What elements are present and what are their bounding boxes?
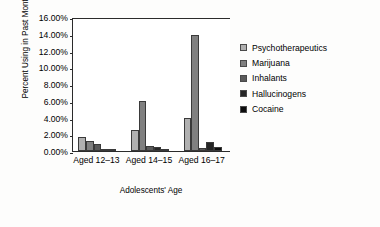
- y-axis-tick-label: 8.00%: [44, 80, 68, 90]
- bar-group: [78, 19, 116, 151]
- bar: [101, 149, 109, 151]
- legend-swatch-icon: [240, 75, 247, 82]
- x-axis-title: Adolescents' Age: [72, 186, 230, 195]
- bar: [214, 147, 222, 151]
- y-axis-tick-mark: [70, 136, 73, 137]
- y-axis-tick-label: 0.00%: [44, 147, 68, 157]
- legend-swatch-icon: [240, 106, 247, 113]
- y-axis-tick-mark: [70, 19, 73, 20]
- x-axis-tick-label: Aged 16–17: [178, 155, 224, 165]
- bar: [161, 149, 169, 151]
- bar-group: [131, 19, 169, 151]
- y-axis-tick-label: 6.00%: [44, 97, 68, 107]
- legend-item[interactable]: Marijuana: [240, 55, 376, 70]
- bar-group: [184, 19, 222, 151]
- bars-container: [73, 19, 230, 151]
- legend-swatch-icon: [240, 90, 247, 97]
- bar: [109, 149, 117, 151]
- y-axis-tick-mark: [70, 103, 73, 104]
- x-axis-tick-label: Aged 14–15: [126, 155, 172, 165]
- bar: [139, 101, 147, 151]
- y-axis-tick-label: 10.00%: [39, 63, 68, 73]
- bar: [131, 130, 139, 151]
- legend-label: Hallucinogens: [252, 89, 306, 99]
- legend-item[interactable]: Cocaine: [240, 102, 376, 117]
- bar: [78, 137, 86, 151]
- bar: [199, 148, 207, 151]
- legend-label: Psychotherapeutics: [252, 43, 327, 53]
- y-axis-tick-mark: [70, 120, 73, 121]
- y-axis-tick-labels: 16.00%14.00%12.00%10.00%8.00%6.00%4.00%2…: [24, 14, 68, 152]
- y-axis-tick-mark: [70, 53, 73, 54]
- bar: [206, 142, 214, 151]
- legend-item[interactable]: Inhalants: [240, 71, 376, 86]
- chart-legend: PsychotherapeuticsMarijuanaInhalantsHall…: [240, 40, 376, 117]
- bar: [146, 146, 154, 151]
- legend-label: Marijuana: [252, 58, 290, 68]
- bar: [94, 144, 102, 151]
- y-axis-tick-label: 16.00%: [39, 13, 68, 23]
- legend-label: Cocaine: [252, 104, 284, 114]
- legend-swatch-icon: [240, 44, 247, 51]
- y-axis-tick-label: 4.00%: [44, 114, 68, 124]
- plot-area: [72, 18, 230, 152]
- legend-swatch-icon: [240, 60, 247, 67]
- bar: [184, 118, 192, 151]
- chart-figure: Percent Using in Past Month 16.00%14.00%…: [0, 0, 380, 227]
- legend-label: Inhalants: [252, 73, 287, 83]
- y-axis-tick-mark: [70, 153, 73, 154]
- bar: [86, 141, 94, 151]
- y-axis-tick-label: 14.00%: [39, 30, 68, 40]
- y-axis-tick-mark: [70, 69, 73, 70]
- x-axis-tick-label: Aged 12–13: [73, 155, 119, 165]
- y-axis-tick-mark: [70, 36, 73, 37]
- legend-item[interactable]: Psychotherapeutics: [240, 40, 376, 55]
- bar: [191, 35, 199, 151]
- legend-item[interactable]: Hallucinogens: [240, 86, 376, 101]
- y-axis-tick-label: 2.00%: [44, 130, 68, 140]
- y-axis-tick-label: 12.00%: [39, 47, 68, 57]
- y-axis-tick-mark: [70, 86, 73, 87]
- bar: [154, 147, 162, 151]
